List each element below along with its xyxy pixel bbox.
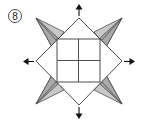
origami-diagram: 8	[0, 0, 143, 126]
step-number: 8	[12, 11, 18, 22]
step-number-badge: 8	[9, 10, 22, 23]
arrow-up-icon	[76, 4, 83, 16]
arrow-left-icon	[23, 58, 34, 65]
arrow-right-icon	[124, 58, 135, 65]
inner-square	[57, 39, 100, 82]
arrow-down-icon	[76, 107, 83, 119]
